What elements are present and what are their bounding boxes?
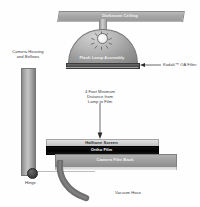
distance-line-3: Lamp to Film xyxy=(88,99,112,104)
ortho-film-label: Ortho Film xyxy=(46,147,157,152)
darkroom-ceiling-label: Darkroom Ceiling xyxy=(58,13,182,18)
halftone-screen-label: Halftone Screen xyxy=(46,140,157,145)
hinge-pivot xyxy=(27,168,38,179)
kodak-oa-filter-label: Kodak™ OA Filter xyxy=(163,62,197,67)
flash-lamp-assembly-label: Flash Lamp Assembly xyxy=(68,55,136,60)
lamp-to-film-distance-label: 4 Foot Minimum Distance from Lamp to Fil… xyxy=(72,89,128,105)
down-arrow-icon xyxy=(96,103,104,139)
filter-mount-edge xyxy=(66,67,138,69)
hinge-label: Hinge xyxy=(25,180,36,185)
camera-housing-label-line2: and Bellows xyxy=(17,54,40,59)
vacuum-hose xyxy=(54,160,112,204)
flash-bulb xyxy=(97,33,108,44)
camera-housing-column xyxy=(21,68,36,176)
left-arrow-icon xyxy=(140,62,162,68)
flash-exposure-diagram: Darkroom Ceiling Flash Lamp Assembly Kod… xyxy=(0,0,200,207)
vacuum-hose-label: Vacuum Hose xyxy=(115,190,141,195)
camera-housing-label: Camera Housing and Bellows xyxy=(2,49,54,59)
ceiling-underside-shadow xyxy=(58,20,182,22)
